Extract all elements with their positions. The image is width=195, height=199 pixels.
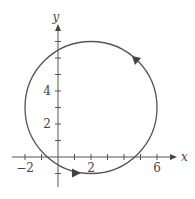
x-axis-label: x: [181, 150, 188, 164]
y-tick-label-4: 4: [43, 84, 51, 98]
y-axis-label: y: [52, 10, 60, 24]
parametric-plot: −2 2 6 2 4 x y: [0, 0, 195, 199]
x-tick-label-6: 6: [153, 161, 161, 175]
x-tick-label-neg2: −2: [16, 161, 34, 175]
direction-arrow-bottom-icon: [72, 169, 81, 178]
y-tick-label-2: 2: [43, 117, 51, 131]
x-axis-arrow-icon: [170, 154, 177, 160]
y-axis-arrow-icon: [55, 24, 61, 31]
